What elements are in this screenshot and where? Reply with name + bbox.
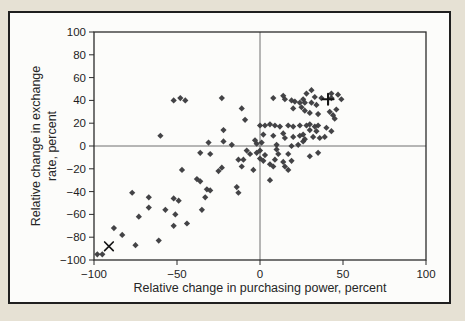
scatter-point [323,125,329,131]
x-tick-label: 100 [416,268,435,280]
scatter-point [315,150,321,156]
y-tick-label: −80 [66,231,86,243]
scatter-point [307,153,313,159]
y-tick-label: −20 [66,163,86,175]
scatter-point [272,157,278,163]
scatter-point [267,121,273,127]
scatter-point [308,87,314,93]
scatter-point [338,96,344,102]
scatter-point [242,117,248,123]
scatter-point [270,95,276,101]
scatter-point [285,122,291,128]
y-tick-label: −100 [60,254,86,266]
scatter-point [328,128,334,134]
scatter-point [270,133,276,139]
scatter-point [202,194,208,200]
y-tick-label: −60 [66,208,86,220]
scatter-point [146,204,152,210]
scatter-point [267,177,273,183]
scatter-point [288,158,294,164]
scatter-point [235,157,241,163]
scatter-point [295,142,301,148]
x-tick-label: −50 [167,268,187,280]
scatter-point [129,190,135,196]
y-tick-label: 80 [73,49,86,61]
scatter-point [229,142,235,148]
scatter-point [184,220,190,226]
scatter-point [172,211,178,217]
scatter-point [146,194,152,200]
scatter-point [250,167,256,173]
scatter-point [171,223,177,229]
scatter-point [219,95,225,101]
scatter-point [290,105,296,111]
scatter-point [199,207,205,213]
scatter-point [119,232,125,238]
page-background: 100806040200−20−40−60−80−100−100−5005010… [0,0,465,321]
scatter-point [220,138,226,144]
scatter-point [171,97,177,103]
scatter-point [285,151,291,157]
plot-area: 100806040200−20−40−60−80−100−100−5005010… [0,0,465,321]
scatter-point [277,124,283,130]
scatter-point [272,122,278,128]
scatter-point [307,127,313,133]
scatter-point [315,111,321,117]
scatter-point [197,150,203,156]
scatter-point [317,135,323,141]
scatter-point [136,214,142,220]
y-tick-label: 20 [73,117,86,129]
y-tick-label: 40 [73,94,86,106]
scatter-point [260,132,266,138]
scatter-point [162,207,168,213]
x-tick-label: 0 [257,268,263,280]
x-marker [105,242,114,251]
y-axis-title-line2: rate, percent [45,111,59,181]
scatter-point [205,139,211,145]
y-axis-title-line1: Relative change in exchange [29,66,43,227]
scatter-point [262,122,268,128]
scatter-point [262,152,268,158]
scatter-point [157,133,163,139]
scatter-point [156,238,162,244]
scatter-point [310,134,316,140]
scatter-point [288,143,294,149]
scatter-point [111,225,117,231]
scatter-point [207,151,213,157]
scatter-point [322,134,328,140]
scatter-point [234,184,240,190]
scatter-point [312,94,318,100]
y-tick-label: 60 [73,72,86,84]
scatter-point [335,92,341,98]
scatter-point [259,139,265,145]
x-axis-title: Relative change in purchasing power, per… [94,281,426,295]
y-axis-title: Relative change in exchangerate, percent [28,66,61,227]
x-tick-label: 50 [337,268,350,280]
scatter-point [132,242,138,248]
scatter-point [290,124,296,130]
scatter-point [179,167,185,173]
y-tick-label: 0 [80,140,86,152]
scatter-point [239,163,245,169]
scatter-point [303,90,309,96]
scatter-point [333,106,339,112]
scatter-point [239,105,245,111]
y-tick-label: −40 [66,186,86,198]
y-tick-label: 100 [67,26,86,38]
scatter-point [235,190,241,196]
scatter-point [220,127,226,133]
scatter-point [290,134,296,140]
x-tick-label: −100 [81,268,107,280]
scatter-point [99,251,105,257]
scatter-point [297,122,303,128]
